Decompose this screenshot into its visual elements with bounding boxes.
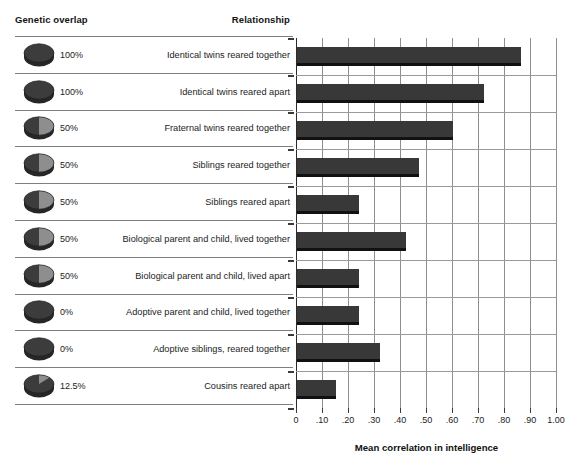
column-header-genetic-overlap: Genetic overlap <box>15 14 88 25</box>
x-axis-tick <box>374 408 375 413</box>
plot-row-separator <box>296 75 557 76</box>
genetic-overlap-value: 50% <box>60 160 78 170</box>
y-axis-tick <box>288 223 294 225</box>
x-axis-tick <box>452 408 453 413</box>
x-axis-tick <box>556 408 557 413</box>
bar <box>297 47 521 66</box>
row-divider <box>15 404 293 405</box>
table-row[interactable]: 50%Biological parent and child, lived ap… <box>14 258 294 294</box>
x-axis-tick-label: 1.00 <box>547 415 565 425</box>
plot-row-separator <box>296 112 557 113</box>
table-row[interactable]: 50%Siblings reared apart <box>14 184 294 220</box>
x-axis-tick-label: .50 <box>420 415 433 425</box>
plot-row-separator <box>296 260 557 261</box>
y-axis-tick <box>288 149 294 151</box>
bar <box>297 84 484 103</box>
bar <box>297 343 380 362</box>
pie-disc-icon <box>22 153 58 177</box>
x-axis-tick <box>478 408 479 413</box>
y-axis-tick <box>288 112 294 114</box>
bar <box>297 121 453 140</box>
x-axis-tick-label: .10 <box>316 415 329 425</box>
y-axis-tick <box>288 408 294 410</box>
pie-disc-icon <box>22 264 58 288</box>
x-axis-tick-label: .80 <box>498 415 511 425</box>
relationship-label: Biological parent and child, lived apart <box>135 271 290 281</box>
x-axis-tick-label: .40 <box>394 415 407 425</box>
plot-row-separator <box>296 297 557 298</box>
bar <box>297 269 359 288</box>
bar-chart-plot: 0.10.20.30.40.50.60.70.80.901.00 Mean co… <box>296 38 557 408</box>
x-axis-tick <box>530 408 531 413</box>
y-axis-tick <box>288 75 294 77</box>
pie-disc-icon <box>22 80 58 104</box>
column-header-relationship: Relationship <box>232 14 290 25</box>
plot-row-separator <box>296 371 557 372</box>
relationship-label: Cousins reared apart <box>204 381 290 391</box>
relationship-label: Adoptive parent and child, lived togethe… <box>126 307 290 317</box>
genetic-overlap-value: 100% <box>60 87 83 97</box>
plot-row-separator <box>296 223 557 224</box>
genetic-overlap-value: 50% <box>60 197 78 207</box>
pie-disc-icon <box>22 116 58 140</box>
table-row[interactable]: 50%Siblings reared together <box>14 147 294 183</box>
y-axis-tick <box>288 186 294 188</box>
x-axis-tick <box>348 408 349 413</box>
pie-disc-icon <box>22 190 58 214</box>
pie-disc-icon <box>22 300 58 324</box>
relationship-label: Siblings reared together <box>192 160 290 170</box>
y-axis-tick <box>288 334 294 336</box>
relationship-label: Biological parent and child, lived toget… <box>122 234 290 244</box>
x-axis-tick <box>426 408 427 413</box>
pie-disc-icon <box>22 43 58 67</box>
bar <box>297 380 336 399</box>
plot-row-separator <box>296 186 557 187</box>
pie-disc-icon <box>22 337 58 361</box>
x-axis-tick <box>322 408 323 413</box>
table-row[interactable]: 0%Adoptive parent and child, lived toget… <box>14 295 294 331</box>
relationship-label: Adoptive siblings, reared together <box>153 344 290 354</box>
pie-disc-icon <box>22 227 58 251</box>
table-row[interactable]: 50%Biological parent and child, lived to… <box>14 221 294 257</box>
x-axis-tick-label: .70 <box>472 415 485 425</box>
x-axis-tick-label: .90 <box>524 415 537 425</box>
table-row[interactable]: 100%Identical twins reared apart <box>14 74 294 110</box>
table-row[interactable]: 100%Identical twins reared together <box>14 37 294 73</box>
bar <box>297 306 359 325</box>
relationship-table: Genetic overlap Relationship 100%Identic… <box>14 14 294 410</box>
table-row[interactable]: 12.5%Cousins reared apart <box>14 368 294 404</box>
relationship-label: Identical twins reared apart <box>180 87 290 97</box>
relationship-label: Fraternal twins reared together <box>164 123 290 133</box>
plot-row-separator <box>296 334 557 335</box>
bar <box>297 232 406 251</box>
bar <box>297 158 419 177</box>
x-axis-tick-label: .20 <box>342 415 355 425</box>
x-axis-tick-label: 0 <box>293 415 298 425</box>
x-axis-tick <box>296 408 297 413</box>
x-axis-tick-label: .30 <box>368 415 381 425</box>
pie-disc-icon <box>22 374 58 398</box>
relationship-label: Siblings reared apart <box>205 197 290 207</box>
genetic-overlap-value: 100% <box>60 50 83 60</box>
table-row[interactable]: 50%Fraternal twins reared together <box>14 111 294 147</box>
y-axis-tick <box>288 371 294 373</box>
x-axis-title: Mean correlation in intelligence <box>296 442 557 453</box>
table-row[interactable]: 0%Adoptive siblings, reared together <box>14 331 294 367</box>
x-axis-tick <box>400 408 401 413</box>
x-axis-tick-label: .60 <box>446 415 459 425</box>
y-axis-tick <box>288 260 294 262</box>
genetic-overlap-value: 0% <box>60 307 73 317</box>
x-axis-tick <box>504 408 505 413</box>
genetic-overlap-value: 50% <box>60 123 78 133</box>
plot-row-separator <box>296 149 557 150</box>
genetic-overlap-value: 50% <box>60 271 78 281</box>
genetic-overlap-value: 0% <box>60 344 73 354</box>
y-axis-tick <box>288 38 294 40</box>
y-axis-tick <box>288 297 294 299</box>
bar <box>297 195 359 214</box>
relationship-label: Identical twins reared together <box>167 50 290 60</box>
genetic-overlap-value: 50% <box>60 234 78 244</box>
genetic-overlap-value: 12.5% <box>60 381 86 391</box>
